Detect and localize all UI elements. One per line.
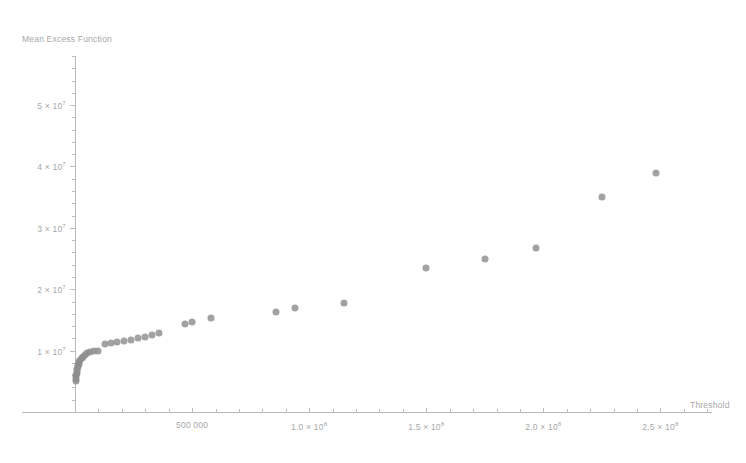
x-axis-tick <box>309 408 310 413</box>
y-axis-tick-label: 5 × 107 <box>24 99 66 111</box>
y-axis-minor-tick <box>72 400 76 401</box>
y-axis-minor-tick <box>72 117 76 118</box>
y-axis-minor-tick <box>72 216 76 217</box>
x-axis-minor-tick <box>379 409 380 412</box>
y-axis-tick-label: 2 × 107 <box>24 283 66 295</box>
y-axis-minor-tick <box>72 81 76 82</box>
data-point <box>149 331 156 338</box>
data-point <box>128 336 135 343</box>
x-axis-minor-tick <box>614 409 615 412</box>
data-point <box>481 255 488 262</box>
data-point <box>135 335 142 342</box>
x-axis-tick-label: 1.5 × 108 <box>408 420 444 432</box>
x-axis-minor-tick <box>590 409 591 412</box>
scatter-plot-area: Mean Excess Function Threshold 1 × 1072 … <box>0 0 746 463</box>
x-axis-minor-tick <box>286 409 287 412</box>
x-axis-minor-tick <box>145 409 146 412</box>
data-point <box>95 347 102 354</box>
y-axis-minor-tick <box>72 302 76 303</box>
y-axis-minor-tick <box>72 265 76 266</box>
x-axis-minor-tick <box>262 409 263 412</box>
x-axis-minor-tick <box>98 409 99 412</box>
x-axis-minor-tick <box>684 409 685 412</box>
data-point <box>189 319 196 326</box>
y-axis-tick <box>70 351 76 352</box>
y-axis-minor-tick <box>72 338 76 339</box>
x-axis-minor-tick <box>707 409 708 412</box>
x-axis-tick-label: 1.0 × 108 <box>291 420 327 432</box>
x-axis-line <box>22 412 712 413</box>
y-axis-minor-tick <box>72 277 76 278</box>
y-axis-minor-tick <box>72 240 76 241</box>
x-axis-tick <box>426 408 427 413</box>
y-axis-minor-tick <box>72 68 76 69</box>
data-point <box>292 304 299 311</box>
data-point <box>273 308 280 315</box>
x-axis-minor-tick <box>497 409 498 412</box>
x-axis-minor-tick <box>216 409 217 412</box>
y-axis-minor-tick <box>72 314 76 315</box>
y-axis-title: Mean Excess Function <box>22 34 112 44</box>
y-axis-minor-tick <box>72 412 76 413</box>
data-point <box>142 333 149 340</box>
x-axis-minor-tick <box>169 409 170 412</box>
x-axis-minor-tick <box>473 409 474 412</box>
y-axis-minor-tick <box>72 191 76 192</box>
x-axis-minor-tick <box>122 409 123 412</box>
data-point <box>652 169 659 176</box>
x-axis-tick <box>660 408 661 413</box>
x-axis-tick-label: 2.0 × 108 <box>525 420 561 432</box>
y-axis-minor-tick <box>72 93 76 94</box>
x-axis-minor-tick <box>520 409 521 412</box>
y-axis-minor-tick <box>72 326 76 327</box>
data-point <box>121 337 128 344</box>
x-axis-tick <box>192 408 193 413</box>
y-axis-tick-label: 1 × 107 <box>24 345 66 357</box>
y-axis-tick <box>70 105 76 106</box>
x-axis-tick <box>543 408 544 413</box>
data-point <box>182 321 189 328</box>
y-axis-tick <box>70 166 76 167</box>
x-axis-minor-tick <box>637 409 638 412</box>
data-point <box>207 315 214 322</box>
y-axis-minor-tick <box>72 179 76 180</box>
data-point <box>598 194 605 201</box>
data-point <box>423 264 430 271</box>
x-axis-minor-tick <box>333 409 334 412</box>
y-axis-minor-tick <box>72 142 76 143</box>
y-axis-minor-tick <box>72 154 76 155</box>
x-axis-tick-label: 2.5 × 108 <box>642 420 678 432</box>
y-axis-minor-tick <box>72 387 76 388</box>
y-axis-minor-tick <box>72 130 76 131</box>
x-axis-tick-label: 500 000 <box>176 420 208 430</box>
y-axis-tick-label: 3 × 107 <box>24 222 66 234</box>
y-axis-tick <box>70 228 76 229</box>
x-axis-minor-tick <box>450 409 451 412</box>
x-axis-minor-tick <box>75 409 76 412</box>
data-point <box>341 299 348 306</box>
x-axis-minor-tick <box>403 409 404 412</box>
data-point <box>156 330 163 337</box>
y-axis-minor-tick <box>72 56 76 57</box>
x-axis-title: Threshold <box>690 400 730 410</box>
y-axis-minor-tick <box>72 252 76 253</box>
y-axis-tick <box>70 289 76 290</box>
chart-root: Mean Excess Function Threshold 1 × 1072 … <box>0 0 746 463</box>
data-point <box>533 245 540 252</box>
data-point <box>114 339 121 346</box>
x-axis-minor-tick <box>239 409 240 412</box>
y-axis-tick-label: 4 × 107 <box>24 161 66 173</box>
y-axis-minor-tick <box>72 203 76 204</box>
x-axis-minor-tick <box>567 409 568 412</box>
x-axis-minor-tick <box>356 409 357 412</box>
